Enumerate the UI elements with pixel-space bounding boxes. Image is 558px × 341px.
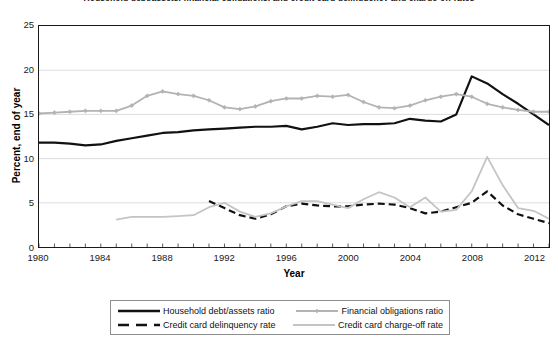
series-line-3 <box>116 157 549 220</box>
legend-item-credit-card-charge-off-rate: Credit card charge-off rate <box>292 318 443 332</box>
y-axis-tick-label: 25 <box>8 20 34 30</box>
legend-label: Household debt/assets ratio <box>163 306 275 316</box>
series-marker-1 <box>501 105 505 109</box>
legend-label: Financial obligations ratio <box>341 306 443 316</box>
series-marker-1 <box>284 96 288 100</box>
series-marker-1 <box>99 109 103 113</box>
series-marker-1 <box>269 99 273 103</box>
legend-swatch-dashed-black <box>117 319 161 331</box>
chart-legend: Household debt/assets ratio Financial ob… <box>110 300 450 335</box>
series-marker-1 <box>191 94 195 98</box>
series-marker-1 <box>377 105 381 109</box>
series-marker-1 <box>547 110 549 114</box>
x-axis-title: Year <box>38 268 550 279</box>
series-marker-1 <box>39 111 41 115</box>
legend-swatch-solid-gray-diamond <box>295 305 339 317</box>
legend-swatch-solid-lightgray <box>292 319 336 331</box>
legend-label: Credit card charge-off rate <box>338 320 443 330</box>
x-axis-tick-label: 2012 <box>514 252 554 263</box>
legend-item-credit-card-delinquency-rate: Credit card delinquency rate <box>117 318 292 332</box>
x-axis-tick-label: 2000 <box>328 252 368 263</box>
series-marker-1 <box>161 89 165 93</box>
series-marker-1 <box>68 110 72 114</box>
legend-row: Household debt/assets ratio Financial ob… <box>117 304 443 318</box>
legend-swatch-solid-black <box>117 305 161 317</box>
plot-area <box>38 25 550 248</box>
legend-item-household-debt-assets-ratio: Household debt/assets ratio <box>117 304 295 318</box>
series-marker-1 <box>238 107 242 111</box>
legend-item-financial-obligations-ratio: Financial obligations ratio <box>295 304 443 318</box>
series-marker-1 <box>300 96 304 100</box>
series-marker-1 <box>439 95 443 99</box>
x-axis-tick-label: 1980 <box>18 252 58 263</box>
plot-svg <box>39 26 549 247</box>
legend-row: Credit card delinquency rate Credit card… <box>117 318 443 332</box>
series-marker-1 <box>253 104 257 108</box>
chart-figure: Household debt/assets, financial obligat… <box>0 0 558 341</box>
series-marker-1 <box>331 95 335 99</box>
x-axis-tick-label: 2004 <box>390 252 430 263</box>
series-marker-1 <box>176 92 180 96</box>
x-axis-tick-label: 2008 <box>452 252 492 263</box>
x-axis-tick-label: 1996 <box>266 252 306 263</box>
series-marker-1 <box>83 109 87 113</box>
series-marker-1 <box>423 98 427 102</box>
series-marker-1 <box>516 108 520 112</box>
x-axis-tick-label: 1984 <box>80 252 120 263</box>
y-axis-title: Percent, end of year <box>11 66 22 206</box>
series-marker-1 <box>392 106 396 110</box>
series-marker-1 <box>114 109 118 113</box>
x-axis-tick-label: 1992 <box>204 252 244 263</box>
x-axis-tick-label: 1988 <box>142 252 182 263</box>
series-marker-1 <box>454 92 458 96</box>
series-marker-1 <box>408 103 412 107</box>
chart-title: Household debt/assets, financial obligat… <box>0 0 558 1</box>
legend-label: Credit card delinquency rate <box>163 320 276 330</box>
series-marker-1 <box>315 94 319 98</box>
series-line-2 <box>209 191 549 223</box>
